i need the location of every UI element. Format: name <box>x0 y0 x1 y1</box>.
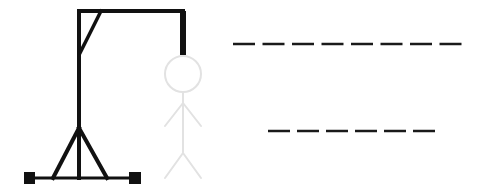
figure-left-arm <box>165 103 183 126</box>
gallows-brace <box>80 11 101 53</box>
hangman-figure <box>165 56 201 178</box>
gallows-leg-right <box>79 128 107 178</box>
gallows-leg-left <box>53 128 79 178</box>
gallows <box>24 11 183 184</box>
figure-head <box>165 56 201 92</box>
figure-left-leg <box>165 153 183 178</box>
gallows-foot-right <box>129 172 141 184</box>
figure-right-leg <box>183 153 201 178</box>
hangman-canvas <box>0 0 484 189</box>
figure-right-arm <box>183 103 201 126</box>
hangman-board <box>0 0 484 189</box>
gallows-foot-left <box>24 172 35 184</box>
